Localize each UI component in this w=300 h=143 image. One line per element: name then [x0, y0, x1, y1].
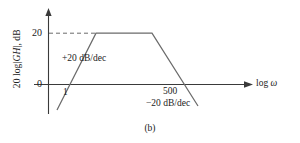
x-tick-label-1: 1 — [63, 88, 68, 98]
annotation-slope-rising: +20 dB/dec — [62, 54, 106, 64]
plot-area — [0, 0, 300, 143]
annotation-slope-falling: −20 dB/dec — [146, 99, 190, 109]
y-axis-arrowhead — [45, 8, 51, 16]
y-axis-label: 20 log|GH|, dB — [13, 11, 23, 107]
y-tick-label-20: 20 — [32, 28, 42, 38]
bode-magnitude-figure: 20 log|GH|, dB 20 0 1 500 +20 dB/dec −20… — [0, 0, 300, 143]
x-tick-label-500: 500 — [163, 87, 177, 97]
figure-caption: (b) — [0, 124, 300, 134]
x-axis-arrowhead — [244, 81, 253, 88]
x-axis-label: log ω — [256, 79, 277, 89]
y-tick-label-0: 0 — [37, 79, 42, 89]
